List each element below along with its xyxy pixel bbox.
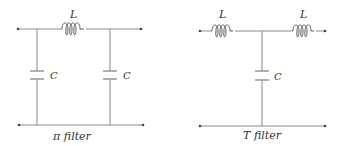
t-filter-caption: T filter: [243, 129, 282, 142]
t-inductor-left-label: L: [218, 8, 226, 21]
pi-filter-caption: π filter: [52, 130, 92, 143]
pi-filter: L C C π filter: [17, 8, 145, 143]
t-inductor-right: [293, 25, 314, 37]
t-terminal-top-right: [324, 30, 327, 33]
t-cap-label: C: [274, 71, 282, 82]
pi-terminal-bottom-right: [142, 124, 145, 127]
t-filter: L L C T filter: [199, 8, 327, 142]
t-terminal-bottom-left: [199, 125, 202, 128]
t-inductor-right-label: L: [299, 8, 307, 21]
pi-terminal-top-right: [140, 28, 143, 31]
t-inductor-left: [212, 25, 233, 37]
pi-inductor-label: L: [69, 8, 77, 21]
filter-diagram: L C C π filter L L C: [0, 0, 343, 146]
pi-inductor: [62, 23, 84, 35]
t-terminal-top-left: [199, 30, 202, 33]
pi-cap-left-label: C: [50, 70, 58, 81]
pi-terminal-top-left: [17, 28, 20, 31]
pi-cap-right-label: C: [123, 70, 131, 81]
pi-terminal-bottom-left: [18, 124, 21, 127]
t-terminal-bottom-right: [324, 125, 327, 128]
